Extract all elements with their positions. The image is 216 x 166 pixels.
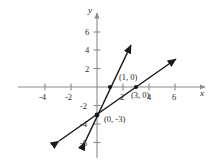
shallow-line [59, 59, 176, 141]
coordinate-graph-figure: y x -4 -2 2 4 6 6 4 2 -2 -4 -6 (1, 0) (3… [0, 0, 216, 166]
point-dot-1-0 [108, 85, 112, 89]
y-tick-label--6: -6 [80, 139, 87, 148]
x-tick-label--4: -4 [39, 93, 46, 102]
y-tick-label-2: 2 [85, 65, 89, 74]
point-label-3-0: (3, 0) [131, 91, 149, 100]
x-axis-label: x [200, 89, 204, 98]
point-label-1-0: (1, 0) [119, 73, 137, 82]
y-tick-label--2: -2 [80, 102, 87, 111]
x-tick-label-6: 6 [172, 93, 176, 102]
y-tick-label--4: -4 [80, 120, 87, 129]
y-axis [94, 13, 101, 158]
point-dot-3-0 [134, 85, 138, 89]
y-axis-label: y [88, 6, 92, 15]
x-tick-label--2: -2 [65, 93, 72, 102]
point-dot-0-neg3 [95, 113, 100, 118]
y-tick-label-6: 6 [85, 28, 89, 37]
point-label-0-neg3: (0, -3) [104, 115, 125, 124]
y-tick-label-4: 4 [85, 46, 89, 55]
x-tick-label-2: 2 [120, 93, 124, 102]
graph-canvas [0, 0, 216, 166]
